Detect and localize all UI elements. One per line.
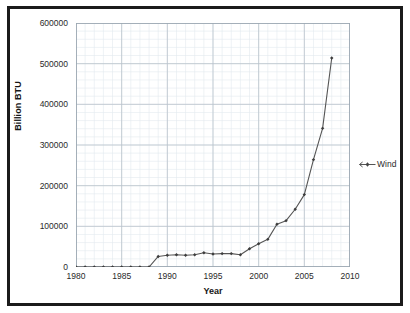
y-tick-label: 600000 [40, 18, 68, 28]
x-axis-tick-labels: 1980198519901995200020052010 [76, 271, 350, 285]
y-tick-label: 200000 [40, 181, 68, 191]
chart-inner: Billion BTU 0100000200000300000400000500… [10, 9, 400, 303]
major-gridlines [76, 23, 350, 267]
x-tick-label: 1990 [158, 271, 177, 281]
x-tick-label: 1980 [67, 271, 86, 281]
y-axis-tick-labels: 0100000200000300000400000500000600000 [10, 23, 72, 267]
plot-area [76, 23, 350, 267]
y-tick-label: 100000 [40, 221, 68, 231]
plot-svg [76, 23, 350, 267]
legend-label-wind: Wind [377, 159, 396, 169]
x-tick-label: 2000 [249, 271, 268, 281]
chart-legend: Wind [359, 159, 396, 169]
x-tick-label: 1985 [112, 271, 131, 281]
x-tick-label: 2010 [341, 271, 360, 281]
x-axis-title: Year [76, 286, 350, 296]
y-tick-label: 400000 [40, 99, 68, 109]
chart-frame: Billion BTU 0100000200000300000400000500… [7, 6, 403, 306]
x-tick-label: 1995 [204, 271, 223, 281]
chart-screenshot: Billion BTU 0100000200000300000400000500… [0, 0, 410, 313]
legend-line-marker-icon [359, 160, 376, 169]
y-tick-label: 300000 [40, 140, 68, 150]
y-tick-label: 500000 [40, 59, 68, 69]
x-tick-label: 2005 [295, 271, 314, 281]
